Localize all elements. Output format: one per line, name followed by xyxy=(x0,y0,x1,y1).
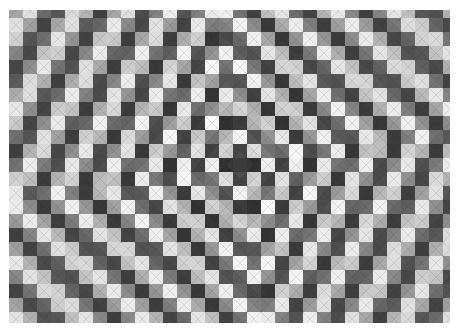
triangular-mesh-heatmap xyxy=(9,10,450,323)
figure-root xyxy=(0,0,459,336)
plot-area xyxy=(9,10,450,323)
